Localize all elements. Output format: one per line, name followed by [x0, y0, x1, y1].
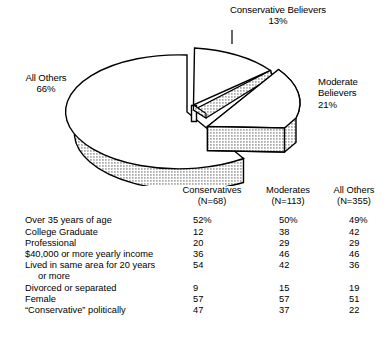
row-label-line2: or more — [25, 271, 167, 282]
row-value-moderates: 38 — [253, 227, 323, 238]
row-value-all-others: 36 — [323, 260, 385, 282]
row-value-moderates: 50% — [253, 215, 323, 226]
pie-label-moderate-percent: 21% — [318, 99, 386, 110]
table-body: Over 35 years of age 52% 50% 49% College… — [25, 215, 385, 316]
row-value-conservatives: 20 — [171, 238, 253, 249]
row-label: Divorced or separated — [25, 283, 171, 294]
row-label: College Graduate — [25, 227, 171, 238]
pie-label-moderate-name-line1: Moderate — [318, 76, 386, 87]
row-label: Female — [25, 294, 171, 305]
column-header-all-others: All Others (N=355) — [323, 185, 385, 215]
pie-label-moderate-believers: Moderate Believers 21% — [318, 76, 386, 110]
row-value-conservatives: 9 — [171, 283, 253, 294]
pie-label-conservative-name: Conservative Believers — [198, 4, 358, 15]
column-header-moderates: Moderates (N=113) — [253, 185, 323, 215]
row-label: Over 35 years of age — [25, 215, 171, 226]
pie-label-conservative-percent: 13% — [198, 15, 358, 26]
pie-label-conservative-believers: Conservative Believers 13% — [198, 4, 358, 27]
row-value-all-others: 22 — [323, 305, 385, 316]
row-value-conservatives: 36 — [171, 249, 253, 260]
row-value-conservatives: 47 — [171, 305, 253, 316]
demographics-table: Conservatives (N=68) Moderates (N=113) A… — [25, 185, 385, 316]
row-value-all-others: 19 — [323, 283, 385, 294]
table-row: Divorced or separated 9 15 19 — [25, 283, 385, 294]
column-header-conservatives-n: (N=68) — [171, 196, 253, 207]
pie-chart: Conservative Believers 13% All Others 66… — [0, 0, 387, 186]
column-header-moderates-label: Moderates — [253, 185, 323, 196]
row-value-moderates: 29 — [253, 238, 323, 249]
row-value-moderates: 57 — [253, 294, 323, 305]
table-row: Lived in same area for 20 years or more … — [25, 260, 385, 282]
table-row: Over 35 years of age 52% 50% 49% — [25, 215, 385, 226]
row-value-conservatives: 52% — [171, 215, 253, 226]
table-row: Female 57 57 51 — [25, 294, 385, 305]
row-value-moderates: 15 — [253, 283, 323, 294]
pie-label-all-others-name: All Others — [4, 72, 88, 83]
table-row: “Conservative” politically 47 37 22 — [25, 305, 385, 316]
table-row: College Graduate 12 38 42 — [25, 227, 385, 238]
row-value-conservatives: 57 — [171, 294, 253, 305]
table-header: Conservatives (N=68) Moderates (N=113) A… — [25, 185, 385, 215]
row-value-all-others: 46 — [323, 249, 385, 260]
row-label-line1: Lived in same area for 20 years — [25, 260, 155, 270]
pie-label-moderate-name-line2: Believers — [318, 87, 386, 98]
column-header-conservatives-label: Conservatives — [171, 185, 253, 196]
table-header-row: Conservatives (N=68) Moderates (N=113) A… — [25, 185, 385, 215]
column-header-all-others-label: All Others — [323, 185, 385, 196]
column-header-conservatives: Conservatives (N=68) — [171, 185, 253, 215]
row-value-moderates: 42 — [253, 260, 323, 282]
row-value-all-others: 42 — [323, 227, 385, 238]
row-value-all-others: 29 — [323, 238, 385, 249]
row-label: Professional — [25, 238, 171, 249]
row-label: $40,000 or more yearly income — [25, 249, 171, 260]
row-label: Lived in same area for 20 years or more — [25, 260, 171, 282]
row-value-conservatives: 12 — [171, 227, 253, 238]
column-header-all-others-n: (N=355) — [323, 196, 385, 207]
figure-pie-and-table: Conservative Believers 13% All Others 66… — [0, 0, 387, 342]
row-label: “Conservative” politically — [25, 305, 171, 316]
pie-label-all-others: All Others 66% — [4, 72, 88, 95]
pie-label-all-others-percent: 66% — [4, 83, 88, 94]
demographics-table-wrap: Conservatives (N=68) Moderates (N=113) A… — [0, 185, 387, 342]
table-corner-header — [25, 185, 171, 215]
row-value-all-others: 51 — [323, 294, 385, 305]
column-header-moderates-n: (N=113) — [253, 196, 323, 207]
row-value-conservatives: 54 — [171, 260, 253, 282]
table-row: $40,000 or more yearly income 36 46 46 — [25, 249, 385, 260]
row-value-moderates: 37 — [253, 305, 323, 316]
row-value-all-others: 49% — [323, 215, 385, 226]
row-value-moderates: 46 — [253, 249, 323, 260]
table-row: Professional 20 29 29 — [25, 238, 385, 249]
